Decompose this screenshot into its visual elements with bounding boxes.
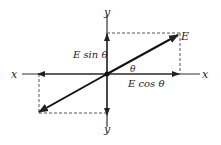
cos-component-label: E cos θ [127, 78, 164, 89]
x-axis-label-left: x [11, 68, 18, 81]
vector-label: E [180, 30, 189, 43]
y-axis-label-top: y [103, 6, 111, 19]
e-vector-arrow-opposite [39, 74, 107, 112]
x-axis-label-right: x [202, 68, 209, 81]
sin-component-label: E sin θ [72, 49, 107, 60]
vector-components-diagram: x x y y E E sin θ θ E cos θ [0, 0, 221, 145]
angle-label: θ [130, 64, 136, 74]
e-vector-arrow [107, 35, 178, 74]
origin-dot [105, 72, 110, 77]
y-axis-label-bottom: y [103, 123, 111, 136]
